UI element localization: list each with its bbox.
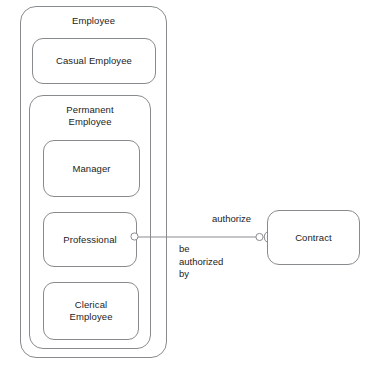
node-contract-label: Contract: [268, 232, 359, 244]
association-reverse-label: be authorized by: [179, 243, 223, 281]
node-employee-label: Employee: [21, 15, 166, 27]
node-professional-label: Professional: [44, 234, 136, 246]
node-manager[interactable]: Manager: [43, 140, 140, 197]
node-casual-employee[interactable]: Casual Employee: [32, 38, 156, 84]
node-professional[interactable]: Professional: [43, 212, 137, 267]
node-permanent-employee-label: Permanent Employee: [30, 104, 150, 128]
node-casual-employee-label: Casual Employee: [33, 55, 155, 67]
association-forward-label: authorize: [212, 213, 251, 226]
node-contract[interactable]: Contract: [267, 210, 360, 265]
node-clerical-employee-label: Clerical Employee: [44, 299, 138, 323]
association-target-ball-icon: [256, 233, 263, 240]
diagram-canvas: Employee Casual Employee Permanent Emplo…: [0, 0, 367, 367]
node-permanent-employee[interactable]: Permanent Employee Manager Professional …: [29, 95, 151, 349]
node-clerical-employee[interactable]: Clerical Employee: [43, 282, 139, 340]
node-manager-label: Manager: [44, 163, 139, 175]
node-employee[interactable]: Employee Casual Employee Permanent Emplo…: [20, 6, 167, 358]
